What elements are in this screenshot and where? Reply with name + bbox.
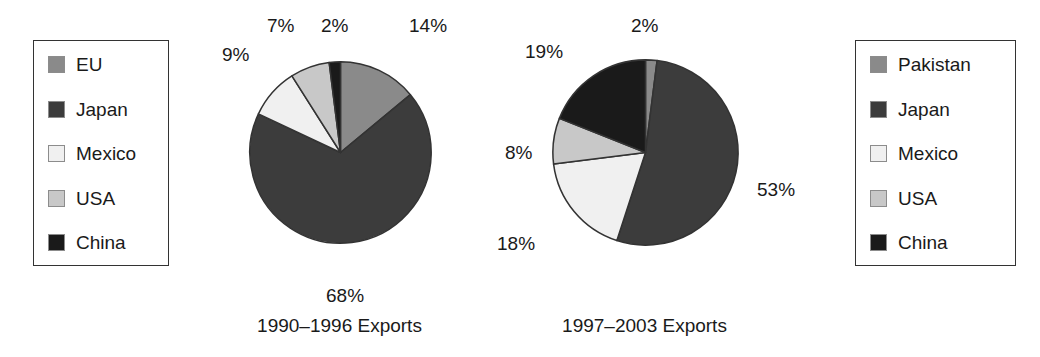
legend-label-mexico: Mexico — [76, 144, 136, 163]
pie-right-svg — [550, 57, 741, 248]
legend-item-usa[interactable]: USA — [870, 189, 1003, 208]
legend-label-pakistan: Pakistan — [898, 55, 971, 74]
legend-swatch-mexico — [870, 145, 887, 162]
legend-item-mexico[interactable]: Mexico — [870, 144, 1003, 163]
legend-item-china[interactable]: China — [48, 233, 156, 252]
legend-swatch-usa — [48, 190, 65, 207]
legend-item-china[interactable]: China — [870, 233, 1003, 252]
legend-right: Pakistan Japan Mexico USA China — [855, 40, 1016, 266]
legend-item-japan[interactable]: Japan — [870, 100, 1003, 119]
legend-item-pakistan[interactable]: Pakistan — [870, 55, 1003, 74]
legend-label-usa: USA — [898, 189, 937, 208]
pie-right-label-pakistan: 2% — [631, 16, 658, 35]
pie-left-label-china: 2% — [321, 16, 348, 35]
legend-item-mexico[interactable]: Mexico — [48, 144, 156, 163]
legend-item-eu[interactable]: EU — [48, 55, 156, 74]
legend-swatch-china — [870, 234, 887, 251]
pie-chart-1990-1996 — [247, 59, 434, 246]
pie-left-label-eu: 14% — [409, 16, 447, 35]
pie-left-label-mexico: 9% — [222, 45, 249, 64]
legend-label-mexico: Mexico — [898, 144, 958, 163]
pie-left-label-japan: 68% — [326, 286, 364, 305]
legend-swatch-eu — [48, 56, 65, 73]
legend-label-china: China — [76, 233, 126, 252]
legend-label-japan: Japan — [898, 100, 950, 119]
legend-swatch-japan — [870, 101, 887, 118]
pie-right-label-china: 19% — [525, 42, 563, 61]
pie-right-label-usa: 8% — [505, 143, 532, 162]
pie-right-label-japan: 53% — [757, 180, 795, 199]
legend-swatch-mexico — [48, 145, 65, 162]
legend-swatch-china — [48, 234, 65, 251]
pie-left-svg — [247, 59, 434, 246]
legend-item-usa[interactable]: USA — [48, 189, 156, 208]
exports-pie-chart-figure: EU Japan Mexico USA China 14% 68% 9% — [0, 0, 1040, 357]
pie-chart-1997-2003 — [550, 57, 741, 248]
legend-left: EU Japan Mexico USA China — [33, 40, 169, 266]
caption-1990-1996: 1990–1996 Exports — [232, 316, 447, 336]
legend-item-japan[interactable]: Japan — [48, 100, 156, 119]
legend-swatch-usa — [870, 190, 887, 207]
caption-1997-2003: 1997–2003 Exports — [537, 316, 752, 336]
legend-label-japan: Japan — [76, 100, 128, 119]
legend-label-eu: EU — [76, 55, 102, 74]
pie-right-label-mexico: 18% — [497, 234, 535, 253]
legend-swatch-japan — [48, 101, 65, 118]
legend-swatch-pakistan — [870, 56, 887, 73]
pie-left-label-usa: 7% — [267, 16, 294, 35]
legend-label-usa: USA — [76, 189, 115, 208]
legend-label-china: China — [898, 233, 948, 252]
